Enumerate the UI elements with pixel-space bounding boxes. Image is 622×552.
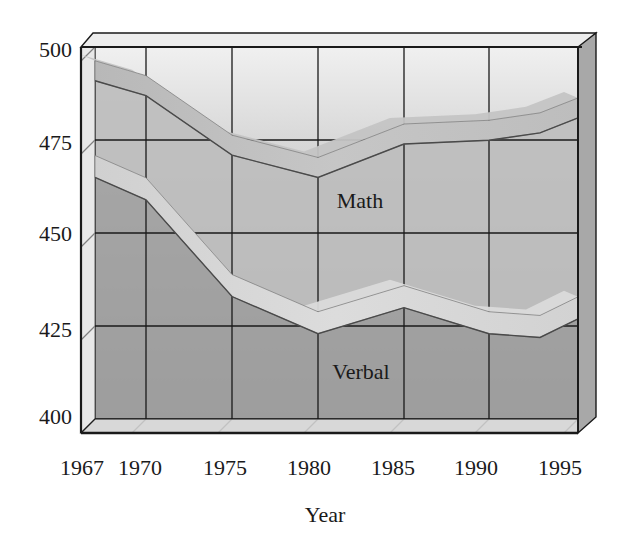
math-series-label: Math <box>337 190 383 212</box>
y-tick-label: 400 <box>12 406 72 428</box>
x-tick-label: 1967 <box>60 457 104 479</box>
verbal-series-label: Verbal <box>332 361 389 383</box>
y-tick-label: 450 <box>12 223 72 245</box>
x-tick-label: 1995 <box>538 457 582 479</box>
x-tick-label: 1980 <box>287 457 331 479</box>
x-tick-label: 1990 <box>454 457 498 479</box>
y-tick-label: 425 <box>12 319 72 341</box>
x-tick-label: 1970 <box>118 457 162 479</box>
x-tick-label: 1985 <box>371 457 415 479</box>
x-axis-title: Year <box>305 504 346 526</box>
x-tick-label: 1975 <box>203 457 247 479</box>
y-tick-label: 475 <box>12 132 72 154</box>
y-tick-label: 500 <box>12 39 72 61</box>
